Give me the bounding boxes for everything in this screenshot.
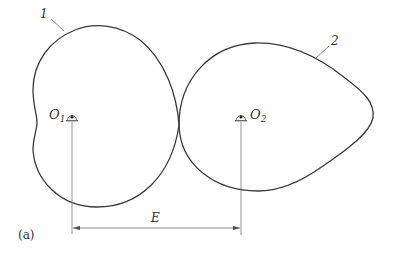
dimension-label-e: E <box>151 212 160 224</box>
pivot-label-o1: O1 <box>49 108 65 124</box>
pivot-o1-name: O <box>49 107 60 122</box>
panel-label: (a) <box>18 229 35 241</box>
leader-line-2 <box>315 46 329 59</box>
pivot-o2-icon <box>235 116 247 122</box>
pitch-curve-2 <box>179 43 373 191</box>
pivot-o2-name: O <box>250 107 261 122</box>
pivot-o2-sub: 2 <box>261 114 267 124</box>
leader-line-1 <box>51 19 64 31</box>
pivot-o1-icon <box>66 116 78 122</box>
noncircular-gears-diagram: 1 2 O1 O2 E (a) <box>0 0 394 260</box>
pivot-label-o2: O2 <box>250 108 266 124</box>
pivot-o1-sub: 1 <box>60 114 66 124</box>
part-label-2: 2 <box>331 35 339 47</box>
part-label-1: 1 <box>40 8 48 20</box>
